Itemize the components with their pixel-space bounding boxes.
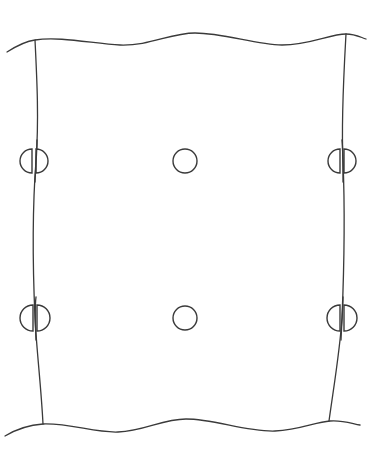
right-edge-overlay xyxy=(341,140,343,340)
panel-diagram xyxy=(0,0,383,450)
split-ring-left-half xyxy=(327,305,340,331)
hole-lower-center xyxy=(173,306,197,330)
split-ring-left-half xyxy=(20,149,32,173)
bottom-wavy-edge xyxy=(5,419,360,436)
split-ring-right-half xyxy=(344,305,357,331)
hole-upper-center xyxy=(173,149,197,173)
left-edge xyxy=(33,40,43,424)
diagram-canvas xyxy=(0,0,383,450)
split-ring-left-half xyxy=(20,305,33,331)
split-ring-right-half xyxy=(344,149,356,173)
split-fastener-upper-left xyxy=(20,149,48,173)
top-wavy-edge xyxy=(7,33,366,52)
split-fastener-upper-right xyxy=(328,149,356,173)
split-ring-right-half xyxy=(37,305,50,331)
split-ring-left-half xyxy=(328,149,340,173)
split-ring-right-half xyxy=(36,149,48,173)
right-edge xyxy=(329,34,346,421)
